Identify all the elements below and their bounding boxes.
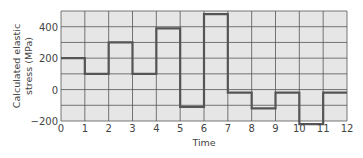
svg-text:5: 5 [177, 123, 183, 134]
x-axis-label: Time [191, 137, 215, 148]
svg-text:6: 6 [201, 123, 207, 134]
svg-text:2: 2 [105, 123, 111, 134]
svg-text:11: 11 [317, 123, 330, 134]
svg-text:4: 4 [153, 123, 159, 134]
svg-text:−200: −200 [31, 116, 58, 127]
svg-text:9: 9 [272, 123, 278, 134]
svg-text:0: 0 [52, 85, 58, 96]
y-axis-label: Calculated elastic stress (MPa) [11, 24, 34, 108]
svg-text:10: 10 [293, 123, 306, 134]
svg-text:Calculated elastic: Calculated elastic [11, 24, 22, 108]
svg-text:3: 3 [129, 123, 135, 134]
svg-text:1: 1 [82, 123, 88, 134]
svg-text:200: 200 [39, 53, 58, 64]
svg-text:0: 0 [58, 123, 64, 134]
stress-step-chart: −2000200400 0123456789101112 Time Calcul… [0, 0, 363, 158]
y-axis-ticks: −2000200400 [31, 22, 58, 127]
svg-text:stress (MPa): stress (MPa) [23, 37, 34, 95]
svg-text:12: 12 [341, 123, 354, 134]
svg-text:400: 400 [39, 22, 58, 33]
svg-text:7: 7 [225, 123, 231, 134]
svg-text:8: 8 [248, 123, 254, 134]
